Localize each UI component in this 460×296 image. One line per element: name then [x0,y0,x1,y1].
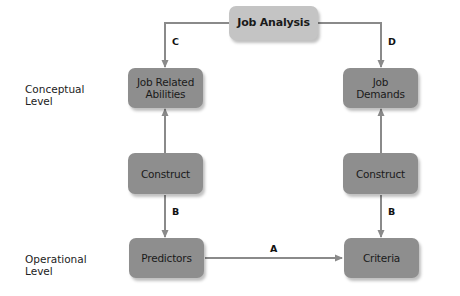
job-demands-node: Job Demands [343,68,418,108]
conceptual-level-label: Conceptual Level [25,83,84,107]
edge-label-c: C [172,36,179,47]
criteria-node: Criteria [344,238,419,278]
diagram-canvas: Conceptual Level Operational Level Job A… [0,0,460,296]
job-analysis-node: Job Analysis [229,6,318,40]
edge-label-a: A [270,243,277,254]
predictors-node: Predictors [129,238,204,278]
job-related-abilities-node: Job Related Abilities [128,68,203,108]
construct-left-node: Construct [128,153,203,194]
edge-label-b-left: B [172,206,179,217]
edge-label-d: D [388,36,396,47]
edge-d [318,23,381,67]
operational-level-label: Operational Level [25,253,87,277]
construct-right-node: Construct [343,153,418,194]
edge-label-b-right: B [388,206,395,217]
